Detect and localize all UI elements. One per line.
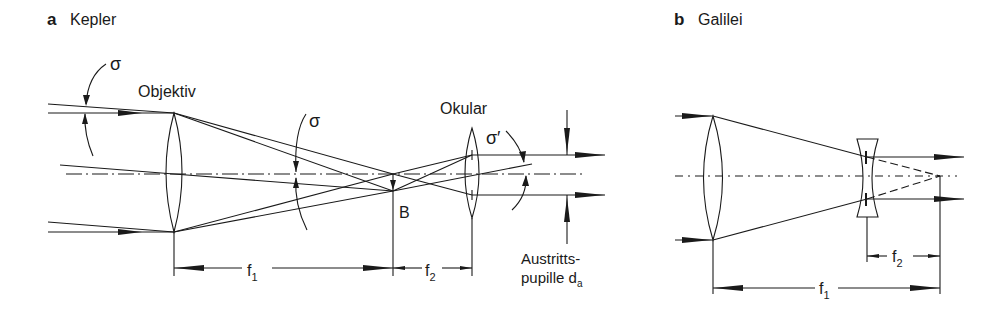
label-exit-pupil-1: Austritts- — [521, 250, 580, 267]
objective-lens — [166, 113, 182, 232]
incoming-ray — [48, 222, 174, 232]
incoming-ray — [60, 165, 174, 174]
label-f2: f2 — [425, 262, 436, 283]
label-sigma-out: σ′ — [486, 128, 501, 148]
objective-lens — [704, 116, 723, 240]
panel-a-letter: a — [47, 10, 57, 29]
panel-b-title: Galilei — [698, 11, 742, 28]
label-f1: f1 — [819, 280, 830, 301]
panel-a-title: Kepler — [70, 11, 117, 28]
label-sigma-mid: σ — [309, 111, 320, 131]
telescope-diagram: a Kepler Objektiv Okular σ σ σ′ B f1 f2 … — [0, 0, 1002, 314]
label-image-b: B — [399, 204, 410, 221]
label-f1: f1 — [247, 262, 258, 283]
label-objektiv: Objektiv — [138, 83, 196, 100]
label-okular: Okular — [440, 100, 488, 117]
panel-kepler — [48, 64, 605, 276]
label-sigma-in: σ — [110, 54, 121, 74]
label-exit-pupil-2: pupille da — [521, 269, 583, 289]
panel-galilei — [675, 113, 964, 294]
incoming-ray — [48, 104, 174, 113]
eyepiece-concave-lens — [857, 139, 878, 217]
panel-b-letter: b — [674, 10, 684, 29]
label-f2: f2 — [892, 248, 903, 269]
eyepiece-lens — [465, 128, 479, 218]
